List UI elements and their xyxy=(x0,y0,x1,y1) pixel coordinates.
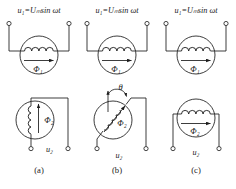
transformer-coupling-figure: u₁=Uₘsin ωt Φ₁ Φ₂ u₂ (a) u xyxy=(0,0,236,189)
panel-c-secondary-flux-label: Φ₂ xyxy=(190,127,199,136)
panel-b-secondary-lead-right xyxy=(126,98,146,147)
panel-a-primary-terminal-left xyxy=(7,21,11,25)
panel-c-primary-flux-label: Φ₁ xyxy=(190,65,199,74)
panel-b-output-label: u₂ xyxy=(116,151,123,160)
panel-a-primary-circuit: u₁=Uₘsin ωt Φ₁ xyxy=(7,6,71,74)
panel-c-secondary-terminal-right xyxy=(217,147,221,151)
panel-b-primary-flux-label: Φ₁ xyxy=(111,65,120,74)
panel-b-secondary-terminal-left xyxy=(95,147,99,151)
panel-c-secondary-terminal-left xyxy=(171,147,175,151)
panel-a-primary-lead-right xyxy=(54,26,70,51)
panel-a: u₁=Uₘsin ωt Φ₁ Φ₂ u₂ (a) xyxy=(7,6,71,175)
panel-a-output-label: u₂ xyxy=(46,145,53,154)
panel-a-secondary-winding xyxy=(28,106,31,134)
panel-b-secondary-flux-label: Φ₂ xyxy=(117,119,126,128)
panel-a-secondary-terminal-right xyxy=(66,147,70,151)
panel-b: u₁=Uₘsin ωt Φ₁ Φ₂ θ u₂ (b) xyxy=(85,6,149,175)
panel-a-secondary-terminal-left xyxy=(29,147,33,151)
panel-a-source-label: u₁=Uₘsin ωt xyxy=(17,6,61,15)
panel-a-primary-flux-label: Φ₁ xyxy=(33,65,42,74)
panel-a-primary-terminal-right xyxy=(67,21,71,25)
panel-c-secondary-winding xyxy=(182,110,211,114)
panel-a-primary-winding xyxy=(25,47,54,51)
panel-b-caption: (b) xyxy=(112,165,122,175)
panel-c-output-label: u₂ xyxy=(193,148,200,157)
panel-b-primary-lead-right xyxy=(132,26,148,51)
panel-b-primary-terminal-left xyxy=(85,21,89,25)
panel-c-primary-circuit: u₁=Uₘsin ωt Φ₁ xyxy=(164,6,228,74)
panel-b-secondary-terminal-right xyxy=(144,147,148,151)
panel-a-caption: (a) xyxy=(34,165,44,175)
panel-c-primary-lead-right xyxy=(211,26,227,51)
panel-c-secondary-circuit: Φ₂ u₂ xyxy=(171,99,221,157)
panel-b-primary-winding xyxy=(103,47,132,51)
panel-b-angle-arc xyxy=(108,89,127,96)
panel-b-primary-circuit: u₁=Uₘsin ωt Φ₁ xyxy=(85,6,149,74)
panel-c-primary-winding xyxy=(182,47,211,51)
panel-c-primary-terminal-right xyxy=(224,21,228,25)
panel-c-primary-terminal-left xyxy=(164,21,168,25)
panel-b-primary-terminal-right xyxy=(145,21,149,25)
panel-b-primary-lead-left xyxy=(87,26,103,51)
panel-a-primary-lead-left xyxy=(9,26,25,51)
panel-a-secondary-circuit: Φ₂ u₂ xyxy=(16,98,70,154)
panel-b-source-label: u₁=Uₘsin ωt xyxy=(95,6,139,15)
panel-c-source-label: u₁=Uₘsin ωt xyxy=(174,6,218,15)
panel-c: u₁=Uₘsin ωt Φ₁ Φ₂ u₂ (c) xyxy=(164,6,228,175)
panel-b-secondary-circuit: Φ₂ θ u₂ xyxy=(94,82,148,160)
panel-c-primary-lead-left xyxy=(166,26,182,51)
panel-a-secondary-flux-label: Φ₂ xyxy=(44,116,53,125)
panel-c-caption: (c) xyxy=(191,165,201,175)
